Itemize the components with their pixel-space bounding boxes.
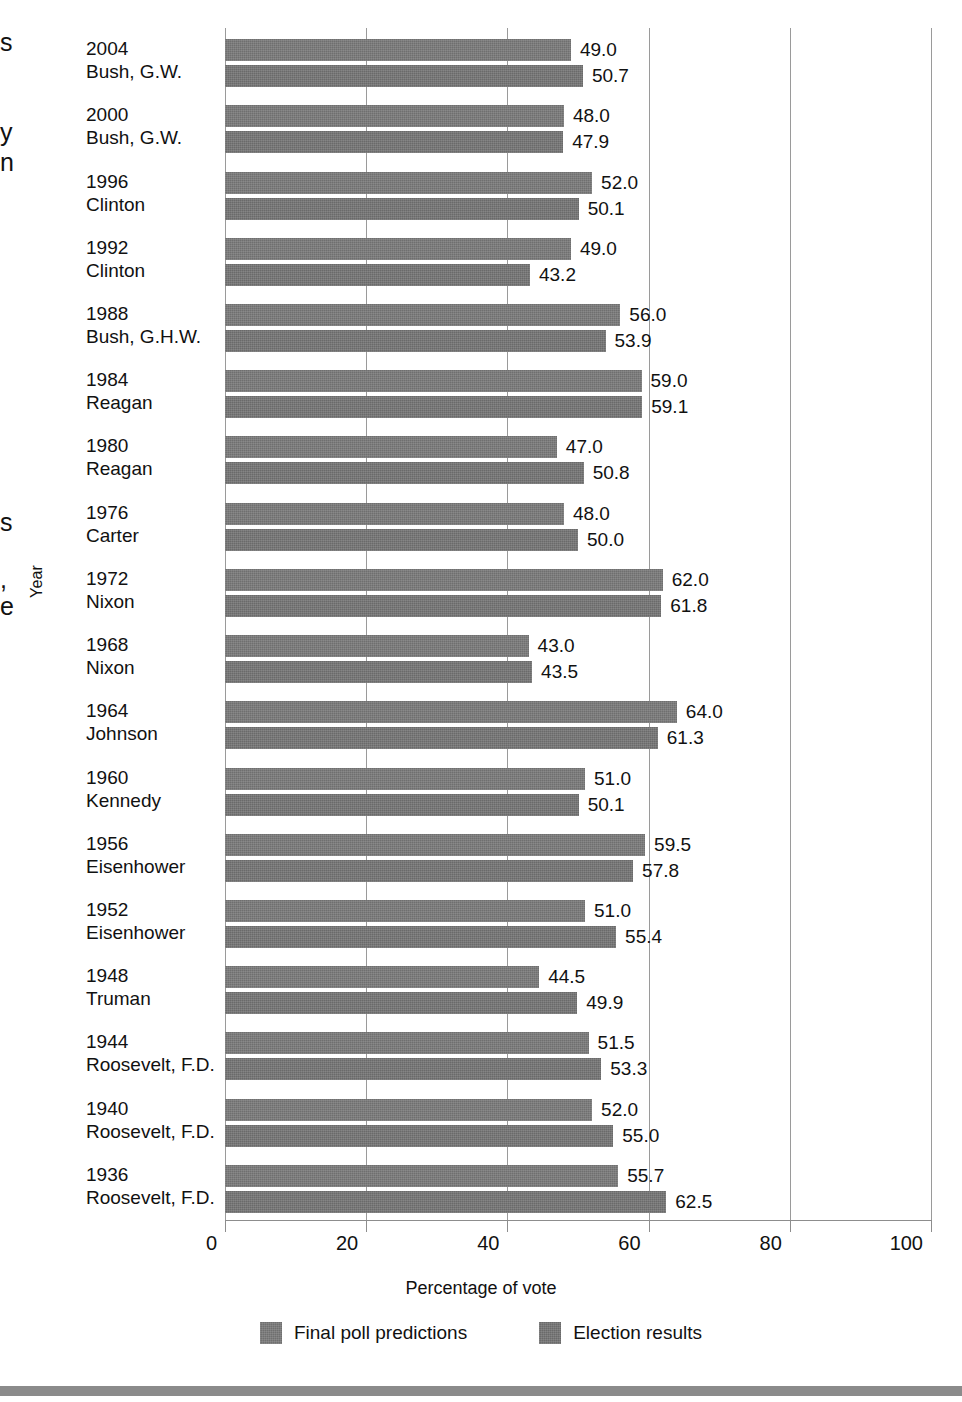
- bar-group: 49.043.2: [225, 227, 931, 293]
- bar-prediction: [225, 768, 585, 790]
- chart-legend: Final poll predictionsElection results: [0, 1322, 962, 1344]
- bar-value-label: 49.0: [580, 238, 617, 260]
- bar-group: 56.053.9: [225, 293, 931, 359]
- bar-result: [225, 926, 616, 948]
- bar-result: [225, 992, 577, 1014]
- bar-value-label: 62.0: [672, 569, 709, 591]
- bar-prediction: [225, 701, 677, 723]
- bar-result: [225, 462, 584, 484]
- legend-label: Final poll predictions: [294, 1322, 467, 1344]
- bar-group: 51.055.4: [225, 889, 931, 955]
- bar-prediction: [225, 900, 585, 922]
- bar-value-label: 61.3: [667, 727, 704, 749]
- x-tick-label-0: 0: [135, 1232, 217, 1255]
- bar-result: [225, 529, 578, 551]
- x-tick-0: [225, 1220, 226, 1232]
- bar-result: [225, 330, 606, 352]
- bar-value-label: 43.5: [541, 661, 578, 683]
- x-tick-label-60: 60: [559, 1232, 641, 1255]
- bar-prediction: [225, 105, 564, 127]
- bar-group: 48.050.0: [225, 492, 931, 558]
- bar-group: 43.043.5: [225, 624, 931, 690]
- bar-value-label: 47.9: [572, 131, 609, 153]
- bar-group: 55.762.5: [225, 1154, 931, 1220]
- page-footer-rule: [0, 1386, 962, 1396]
- bar-group: 62.061.8: [225, 558, 931, 624]
- gridline-100: [931, 28, 932, 1220]
- bar-value-label: 50.0: [587, 529, 624, 551]
- x-tick-label-40: 40: [417, 1232, 499, 1255]
- bar-group: 48.047.9: [225, 94, 931, 160]
- bar-result: [225, 264, 530, 286]
- bar-value-label: 43.0: [538, 635, 575, 657]
- bar-value-label: 59.5: [654, 834, 691, 856]
- bar-value-label: 52.0: [601, 1099, 638, 1121]
- bar-value-label: 51.0: [594, 768, 631, 790]
- bar-group: 49.050.7: [225, 28, 931, 94]
- bar-value-label: 55.4: [625, 926, 662, 948]
- bar-value-label: 55.7: [627, 1165, 664, 1187]
- bar-result: [225, 661, 532, 683]
- bar-result: [225, 727, 658, 749]
- bar-prediction: [225, 966, 539, 988]
- bar-group: 52.050.1: [225, 160, 931, 226]
- x-axis-title: Percentage of vote: [0, 1278, 962, 1299]
- bar-result: [225, 1191, 666, 1213]
- bar-group: 47.050.8: [225, 425, 931, 491]
- bar-value-label: 48.0: [573, 503, 610, 525]
- bar-value-label: 47.0: [566, 436, 603, 458]
- bar-prediction: [225, 39, 571, 61]
- x-tick-40: [507, 1220, 508, 1232]
- legend-item: Final poll predictions: [260, 1322, 467, 1344]
- bar-value-label: 53.3: [610, 1058, 647, 1080]
- bar-value-label: 51.5: [598, 1032, 635, 1054]
- bar-value-label: 50.7: [592, 65, 629, 87]
- bar-result: [225, 860, 633, 882]
- chart-figure: s y n s , e Year 2004Bush, G.W.2000Bush,…: [0, 0, 962, 1402]
- x-axis-line: [225, 1220, 931, 1221]
- legend-swatch-icon: [260, 1322, 282, 1344]
- bar-result: [225, 65, 583, 87]
- bar-group: 51.553.3: [225, 1021, 931, 1087]
- bar-group: 59.557.8: [225, 823, 931, 889]
- y-axis-category-labels: 2004Bush, G.W.2000Bush, G.W.1996Clinton1…: [0, 28, 222, 1220]
- bar-group: 64.061.3: [225, 690, 931, 756]
- bar-value-label: 64.0: [686, 701, 723, 723]
- plot-area: 49.050.748.047.952.050.149.043.256.053.9…: [225, 28, 931, 1220]
- bar-prediction: [225, 834, 645, 856]
- legend-label: Election results: [573, 1322, 702, 1344]
- bar-prediction: [225, 370, 642, 392]
- bar-value-label: 56.0: [629, 304, 666, 326]
- bar-prediction: [225, 238, 571, 260]
- bar-value-label: 61.8: [670, 595, 707, 617]
- bar-prediction: [225, 172, 592, 194]
- x-tick-label-80: 80: [700, 1232, 782, 1255]
- x-axis-tick-labels: 020406080100: [0, 1232, 962, 1262]
- bar-result: [225, 595, 661, 617]
- bar-value-label: 43.2: [539, 264, 576, 286]
- bar-value-label: 44.5: [548, 966, 585, 988]
- bar-value-label: 51.0: [594, 900, 631, 922]
- bar-value-label: 55.0: [622, 1125, 659, 1147]
- bar-prediction: [225, 1099, 592, 1121]
- bar-result: [225, 794, 579, 816]
- x-tick-label-20: 20: [276, 1232, 358, 1255]
- bar-value-label: 52.0: [601, 172, 638, 194]
- x-tick-100: [931, 1220, 932, 1232]
- bar-result: [225, 131, 563, 153]
- bar-group: 44.549.9: [225, 955, 931, 1021]
- x-tick-label-100: 100: [841, 1232, 923, 1255]
- bar-result: [225, 396, 642, 418]
- bar-prediction: [225, 569, 663, 591]
- bar-result: [225, 1058, 601, 1080]
- bar-value-label: 48.0: [573, 105, 610, 127]
- bar-value-label: 50.1: [588, 198, 625, 220]
- bar-value-label: 59.0: [651, 370, 688, 392]
- bar-group: 51.050.1: [225, 756, 931, 822]
- bar-group: 52.055.0: [225, 1088, 931, 1154]
- bar-value-label: 49.9: [586, 992, 623, 1014]
- bar-value-label: 57.8: [642, 860, 679, 882]
- bar-value-label: 50.1: [588, 794, 625, 816]
- bar-group: 59.059.1: [225, 359, 931, 425]
- bar-value-label: 50.8: [593, 462, 630, 484]
